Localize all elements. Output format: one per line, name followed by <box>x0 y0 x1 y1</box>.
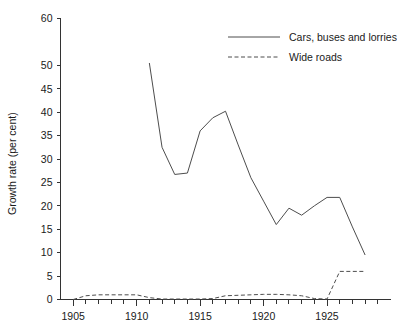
data-series-group <box>73 63 365 300</box>
x-tick-label: 1910 <box>125 310 149 322</box>
y-axis: 0510152025303540455060 <box>41 12 61 305</box>
chart-legend: Cars, buses and lorriesWide roads <box>228 31 397 63</box>
y-tick-label: 40 <box>41 106 53 118</box>
y-tick-label: 50 <box>41 59 53 71</box>
y-tick-label: 25 <box>41 176 53 188</box>
chart-container: 0510152025303540455060 19051910191519201… <box>0 0 397 336</box>
line-chart: 0510152025303540455060 19051910191519201… <box>0 0 397 336</box>
y-axis-title: Growth rate (per cent) <box>6 112 18 215</box>
y-tick-label: 45 <box>41 83 53 95</box>
x-tick-label: 1920 <box>252 310 276 322</box>
y-tick-label: 10 <box>41 246 53 258</box>
x-axis: 19051910191519201925 <box>61 300 391 322</box>
x-tick-label: 1915 <box>188 310 212 322</box>
series-line-1 <box>73 271 365 299</box>
y-tick-label: 20 <box>41 200 53 212</box>
legend-label-0: Cars, buses and lorries <box>289 31 397 43</box>
y-tick-label: 30 <box>41 153 53 165</box>
y-tick-label: 0 <box>47 293 53 305</box>
x-tick-label: 1905 <box>62 310 86 322</box>
y-tick-label: 15 <box>41 223 53 235</box>
y-tick-label: 5 <box>47 270 53 282</box>
legend-label-1: Wide roads <box>289 51 342 63</box>
x-tick-label: 1925 <box>315 310 339 322</box>
y-tick-label: 35 <box>41 129 53 141</box>
series-line-0 <box>149 63 365 255</box>
y-tick-label: 60 <box>41 12 53 24</box>
